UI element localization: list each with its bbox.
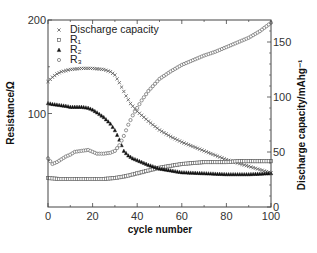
x-tick-label: 0 bbox=[45, 210, 51, 222]
circle-marker-icon bbox=[57, 58, 60, 61]
circle-marker-icon bbox=[129, 118, 132, 121]
cross-marker-icon bbox=[127, 98, 130, 101]
x-tick-label: 20 bbox=[86, 210, 98, 222]
circle-marker-icon bbox=[120, 139, 123, 142]
circle-marker-icon bbox=[138, 103, 141, 106]
circle-marker-icon bbox=[124, 129, 127, 132]
circle-marker-icon bbox=[118, 144, 121, 147]
circle-marker-icon bbox=[122, 134, 125, 137]
triangle-marker-icon bbox=[113, 128, 116, 131]
circle-marker-icon bbox=[142, 96, 145, 99]
y-right-tick-label: 100 bbox=[273, 91, 291, 103]
x-tick-label: 40 bbox=[131, 210, 143, 222]
cross-marker-icon bbox=[122, 90, 125, 93]
cross-marker-icon bbox=[124, 94, 127, 97]
x-tick-label: 60 bbox=[176, 210, 188, 222]
cross-marker-icon bbox=[118, 81, 121, 84]
square-marker-icon bbox=[57, 38, 60, 41]
triangle-marker-icon bbox=[115, 133, 118, 136]
y-tick-label: 100 bbox=[28, 108, 46, 120]
y-right-tick-label: 0 bbox=[273, 201, 279, 213]
triangle-marker-icon bbox=[111, 125, 114, 128]
y-right-tick-label: 150 bbox=[273, 36, 291, 48]
circle-marker-icon bbox=[116, 146, 119, 149]
circle-marker-icon bbox=[140, 99, 143, 102]
legend-label: R₃ bbox=[70, 53, 82, 65]
cross-marker-icon bbox=[116, 77, 119, 80]
axis-ticks: 020406080100100200050100150 bbox=[28, 14, 292, 222]
cross-marker-icon bbox=[120, 86, 123, 89]
circle-marker-icon bbox=[136, 106, 139, 109]
circle-marker-icon bbox=[133, 110, 136, 113]
cross-marker-icon bbox=[57, 28, 60, 31]
x-axis-title: cycle number bbox=[128, 224, 193, 235]
x-tick-label: 80 bbox=[220, 210, 232, 222]
y-tick-label: 200 bbox=[28, 14, 46, 26]
series-0 bbox=[46, 67, 272, 175]
triangle-marker-icon bbox=[122, 149, 125, 152]
circle-marker-icon bbox=[127, 123, 130, 126]
legend: Discharge capacityR₁R₂R₃ bbox=[57, 23, 159, 65]
circle-marker-icon bbox=[113, 149, 116, 152]
legend-label: Discharge capacity bbox=[70, 23, 159, 35]
y-axis-title-left: Resistance/Ω bbox=[5, 81, 16, 145]
chart: 020406080100100200050100150 Discharge ca… bbox=[0, 0, 317, 253]
circle-marker-icon bbox=[145, 93, 148, 96]
triangle-marker-icon bbox=[57, 48, 61, 52]
y-axis-title-right: Discharge capacity/mAhg⁻¹ bbox=[296, 59, 307, 190]
y-right-tick-label: 50 bbox=[273, 146, 285, 158]
circle-marker-icon bbox=[131, 114, 134, 117]
